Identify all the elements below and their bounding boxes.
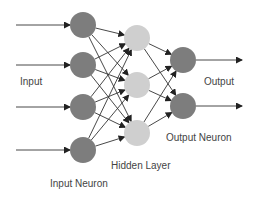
input-neuron — [70, 94, 96, 120]
hidden-neuron — [124, 120, 150, 146]
input-neuron-label: Input Neuron — [50, 178, 108, 189]
edge-input-hidden — [95, 113, 126, 128]
edge-input-hidden — [95, 137, 124, 146]
hidden-layer-label: Hidden Layer — [111, 160, 170, 171]
edge-hidden-output — [149, 90, 171, 100]
hidden-neuron — [124, 72, 150, 98]
edge-hidden-output — [148, 113, 172, 127]
edge-input-hidden — [95, 44, 126, 59]
output-neuron — [170, 47, 196, 73]
edge-input-hidden — [92, 35, 129, 76]
input-neuron — [70, 52, 96, 78]
input-label: Input — [20, 76, 42, 87]
edge-input-hidden — [91, 75, 129, 123]
hidden-neuron — [124, 25, 150, 51]
output-neuron-label: Output Neuron — [166, 132, 232, 143]
input-neuron — [70, 12, 96, 38]
output-neuron — [170, 93, 196, 119]
output-label: Output — [204, 76, 234, 87]
edge-hidden-output — [149, 44, 172, 55]
edge-input-hidden — [96, 28, 125, 35]
input-neuron — [70, 137, 96, 163]
edge-hidden-output — [148, 66, 171, 79]
